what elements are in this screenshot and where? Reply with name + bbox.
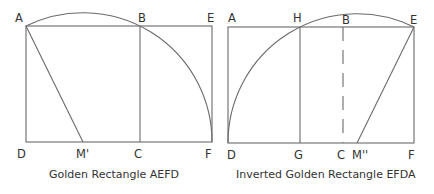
label-f: F [408, 148, 415, 162]
label-c: C [134, 147, 142, 161]
label-m-prime: M' [76, 147, 89, 161]
label-b: B [342, 13, 350, 27]
golden-rectangle-diagrams: A B E D M' C F Golden Rectangle AEFD A H… [0, 0, 434, 194]
label-d: D [227, 148, 236, 162]
golden-rectangle-figure: A B E D M' C F Golden Rectangle AEFD [15, 11, 214, 181]
line-am [26, 26, 83, 142]
label-f: F [205, 147, 212, 161]
inverted-golden-rectangle-figure: A H B E D G C M'' F Inverted Golden Rect… [227, 11, 417, 181]
label-d: D [17, 147, 26, 161]
label-m-double-prime: M'' [352, 148, 368, 162]
label-a: A [15, 11, 23, 25]
arc-af [26, 13, 212, 142]
label-a: A [228, 11, 236, 25]
caption-golden-rectangle: Golden Rectangle AEFD [49, 168, 179, 181]
label-e: E [207, 11, 214, 25]
label-h: H [293, 11, 302, 25]
label-e: E [410, 13, 417, 27]
label-b: B [138, 11, 146, 25]
caption-inverted-golden-rectangle: Inverted Golden Rectangle EFDA [236, 168, 416, 181]
line-em [357, 27, 414, 143]
arc-de [228, 14, 414, 143]
label-c: C [337, 148, 345, 162]
label-g: G [294, 148, 303, 162]
